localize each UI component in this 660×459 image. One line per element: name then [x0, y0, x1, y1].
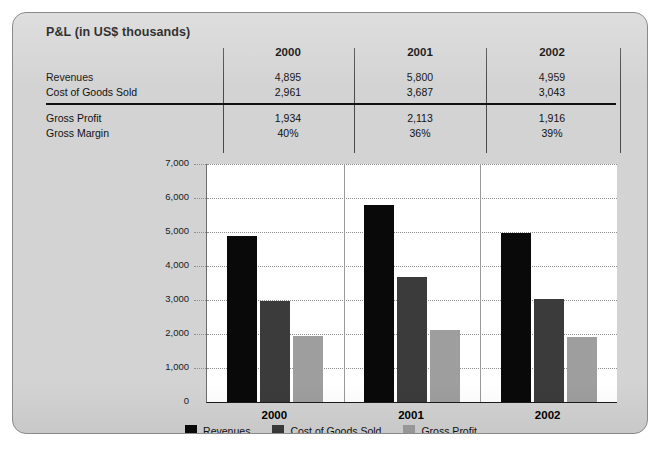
y-tick-label: 3,000: [131, 293, 189, 304]
group-separator: [344, 164, 345, 402]
table-header-2001: 2001: [360, 46, 480, 58]
bar-2002-revenues: [501, 233, 531, 402]
table-cell: 3,687: [360, 86, 480, 98]
y-tick-label: 2,000: [131, 327, 189, 338]
legend-label: Cost of Goods Sold: [290, 425, 381, 434]
bar-2002-gross-profit: [567, 337, 597, 402]
legend-item: Cost of Goods Sold: [272, 425, 381, 434]
gridline-tick: [194, 198, 206, 199]
table-header-2002: 2002: [492, 46, 612, 58]
bar-2000-cost-of-goods-sold: [260, 301, 290, 402]
bar-2001-revenues: [364, 205, 394, 402]
x-tick-label-2000: 2000: [209, 409, 339, 421]
legend-item: Gross Profit: [403, 425, 476, 434]
page-title: P&L (in US$ thousands): [46, 25, 190, 39]
table-column-divider-3: [620, 48, 621, 153]
legend-swatch-icon: [403, 425, 415, 434]
bar-2001-gross-profit: [430, 330, 460, 402]
table-row-label: Gross Margin: [46, 127, 109, 139]
y-tick-label: 0: [131, 395, 189, 406]
table-column-divider-0: [223, 48, 224, 153]
legend-label: Revenues: [203, 425, 250, 434]
gridline: [207, 266, 617, 267]
gridline-tick: [194, 164, 206, 165]
table-row-label: Revenues: [46, 71, 93, 83]
table-cell: 3,043: [492, 86, 612, 98]
table-cell: 1,934: [228, 112, 348, 124]
y-tick-label: 6,000: [131, 191, 189, 202]
gridline: [207, 232, 617, 233]
legend-item: Revenues: [185, 425, 250, 434]
gridline-tick: [194, 368, 206, 369]
table-cell: 39%: [492, 127, 612, 139]
y-tick-label: 5,000: [131, 225, 189, 236]
gridline-tick: [194, 232, 206, 233]
gridline-tick: [194, 266, 206, 267]
table-separator-rule: [46, 103, 616, 105]
table-row-label: Gross Profit: [46, 112, 101, 124]
gridline: [207, 164, 617, 165]
table-cell: 5,800: [360, 71, 480, 83]
table-cell: 36%: [360, 127, 480, 139]
legend-label: Gross Profit: [421, 425, 476, 434]
y-tick-label: 1,000: [131, 361, 189, 372]
table-cell: 2,961: [228, 86, 348, 98]
group-separator: [480, 164, 481, 402]
x-tick-label-2002: 2002: [483, 409, 613, 421]
bar-2001-cost-of-goods-sold: [397, 277, 427, 402]
table-cell: 4,959: [492, 71, 612, 83]
bar-2002-cost-of-goods-sold: [534, 299, 564, 402]
bar-2000-revenues: [227, 236, 257, 402]
bar-2000-gross-profit: [293, 336, 323, 402]
plot-area: 01,0002,0003,0004,0005,0006,0007,000: [206, 164, 617, 403]
table-column-divider-2: [486, 48, 487, 153]
gridline: [207, 198, 617, 199]
table-cell: 2,113: [360, 112, 480, 124]
bar-chart: 01,0002,0003,0004,0005,0006,0007,000 200…: [13, 153, 648, 434]
table-cell: 40%: [228, 127, 348, 139]
table-column-divider-1: [354, 48, 355, 153]
y-tick-label: 7,000: [131, 157, 189, 168]
table-cell: 4,895: [228, 71, 348, 83]
table-row-label: Cost of Goods Sold: [46, 86, 137, 98]
y-tick-label: 4,000: [131, 259, 189, 270]
legend-swatch-icon: [185, 425, 197, 434]
table-cell: 1,916: [492, 112, 612, 124]
gridline-tick: [194, 334, 206, 335]
x-tick-label-2001: 2001: [346, 409, 476, 421]
legend-swatch-icon: [272, 425, 284, 434]
chart-legend: RevenuesCost of Goods SoldGross Profit: [13, 425, 648, 434]
gridline-tick: [194, 300, 206, 301]
pl-report-panel: P&L (in US$ thousands) 200020012002 Reve…: [12, 12, 648, 434]
table-header-2000: 2000: [228, 46, 348, 58]
pl-table: 200020012002 Revenues4,8955,8004,959Cost…: [13, 41, 648, 155]
